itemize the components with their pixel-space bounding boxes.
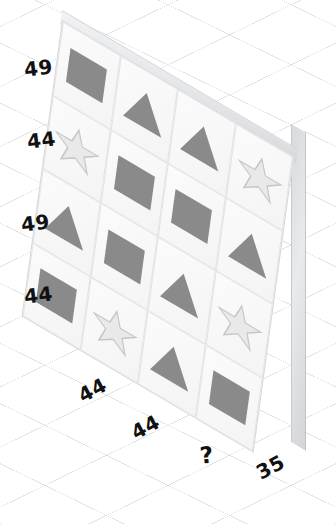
board-side-face (291, 124, 306, 451)
triangle-icon (146, 323, 197, 404)
col-sum-label-3-unknown: ? (199, 441, 215, 468)
row-sum-label-1: 49 (23, 54, 55, 81)
star-icon (89, 289, 140, 370)
square-icon (204, 357, 255, 438)
row-sum-label-3: 49 (20, 209, 52, 236)
row-sum-label-4: 44 (23, 281, 55, 308)
puzzle-canvas: 49 44 49 44 44 44 ? 35 (0, 0, 336, 524)
row-sum-label-2: 44 (26, 126, 58, 153)
grid-front-face (22, 20, 294, 453)
